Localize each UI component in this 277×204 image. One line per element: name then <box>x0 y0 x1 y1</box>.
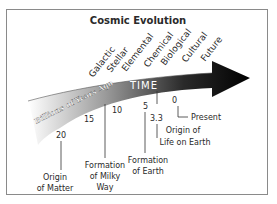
event-label: of Matter <box>37 184 74 193</box>
event-label: Way <box>96 183 113 192</box>
event-label: Origin of <box>166 126 201 135</box>
tick-label: 15 <box>84 115 94 124</box>
diagram-title: Cosmic Evolution <box>90 15 186 26</box>
tick-label: 20 <box>56 131 66 140</box>
tick-label: 0 <box>172 96 177 105</box>
time-label: TIME <box>129 80 158 91</box>
event-label: of Milky <box>90 172 121 181</box>
tick-label: 3.3 <box>150 114 163 123</box>
cosmic-evolution-diagram: Cosmic Evolution Galactic Stellar Elemen… <box>0 0 277 204</box>
event-label: Present <box>191 113 221 122</box>
event-label: Origin <box>43 173 67 182</box>
event-label: Formation <box>85 161 125 170</box>
leader-line <box>178 106 188 117</box>
tick-label: 5 <box>143 102 148 111</box>
event-label: Formation <box>128 156 168 165</box>
event-label: Life on Earth <box>160 138 211 147</box>
tick-label: 10 <box>112 106 122 115</box>
event-label: of Earth <box>132 167 164 176</box>
